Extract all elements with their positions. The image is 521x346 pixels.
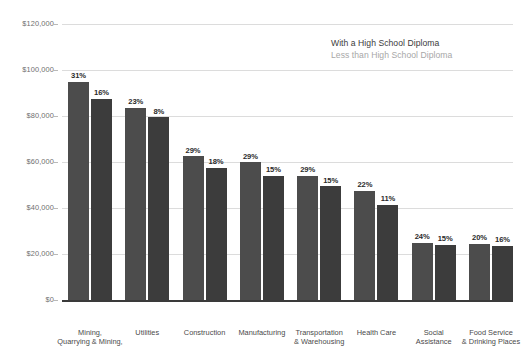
- y-axis-tick-mark: [53, 300, 58, 301]
- bar-value-label: 24%: [415, 232, 430, 241]
- bar-value-label: 16%: [495, 235, 510, 244]
- y-axis-tick-label: $120,000: [0, 19, 54, 28]
- bar-group: 29%18%: [183, 24, 227, 300]
- bar-value-label: 29%: [243, 152, 258, 161]
- y-axis-tick-mark: [53, 24, 58, 25]
- bar-value-label: 29%: [300, 165, 315, 174]
- bar-with-diploma: 29%: [183, 156, 204, 300]
- y-axis-tick-label: $20,000: [0, 249, 54, 258]
- y-axis-tick-label: $80,000: [0, 111, 54, 120]
- bar-less-than-diploma: 11%: [377, 205, 398, 300]
- chart-legend: With a High School Diploma Less than Hig…: [331, 38, 452, 61]
- y-axis-tick-label: $0: [0, 295, 54, 304]
- legend-item-with-diploma: With a High School Diploma: [331, 38, 452, 50]
- legend-item-less-than-diploma: Less than High School Diploma: [331, 50, 452, 62]
- bar-less-than-diploma: 8%: [148, 117, 169, 300]
- bar-value-label: 29%: [186, 146, 201, 155]
- plot-area: 31%16%Mining, Quarrying & Mining, and Oi…: [62, 24, 513, 300]
- bar-group: 29%15%: [240, 24, 284, 300]
- bar-group: 20%16%: [469, 24, 513, 300]
- bar-value-label: 16%: [94, 88, 109, 97]
- bar-group: 23%8%: [125, 24, 169, 300]
- bar-less-than-diploma: 16%: [91, 99, 112, 300]
- bar-less-than-diploma: 16%: [492, 246, 513, 300]
- bar-with-diploma: 29%: [240, 162, 261, 300]
- bar-with-diploma: 20%: [469, 244, 490, 300]
- bar-value-label: 31%: [71, 71, 86, 80]
- bar-chart: $120,000$100,000$80,000$60,000$40,000$20…: [0, 0, 521, 346]
- bar-less-than-diploma: 15%: [435, 245, 456, 300]
- bar-value-label: 20%: [472, 233, 487, 242]
- y-axis-tick-mark: [53, 254, 58, 255]
- bar-group: 29%15%: [297, 24, 341, 300]
- y-axis-tick-label: $60,000: [0, 157, 54, 166]
- bar-value-label: 22%: [357, 180, 372, 189]
- y-axis-tick-mark: [53, 116, 58, 117]
- bar-value-label: 8%: [153, 107, 164, 116]
- bar-less-than-diploma: 18%: [206, 168, 227, 300]
- bar-value-label: 11%: [381, 194, 395, 203]
- bar-with-diploma: 23%: [125, 108, 146, 300]
- bar-group: 24%15%: [412, 24, 456, 300]
- y-axis-tick-label: $40,000: [0, 203, 54, 212]
- bar-value-label: 23%: [128, 97, 143, 106]
- bar-with-diploma: 31%: [68, 82, 89, 301]
- bar-value-label: 18%: [209, 157, 224, 166]
- bar-with-diploma: 22%: [354, 191, 375, 300]
- bar-with-diploma: 29%: [297, 176, 318, 300]
- axis-baseline: [62, 300, 513, 302]
- y-axis-tick-mark: [53, 70, 58, 71]
- x-axis-category-label: Food Service & Drinking Places: [446, 328, 521, 346]
- y-axis-tick-mark: [53, 162, 58, 163]
- bar-group: 22%11%: [354, 24, 398, 300]
- bar-less-than-diploma: 15%: [263, 176, 284, 300]
- bar-value-label: 15%: [266, 165, 281, 174]
- bar-less-than-diploma: 15%: [320, 186, 341, 300]
- bar-value-label: 15%: [438, 234, 453, 243]
- bar-with-diploma: 24%: [412, 243, 433, 301]
- y-axis-tick-label: $100,000: [0, 65, 54, 74]
- y-axis-tick-mark: [53, 208, 58, 209]
- bar-value-label: 15%: [323, 176, 338, 185]
- bar-group: 31%16%: [68, 24, 112, 300]
- y-axis: $120,000$100,000$80,000$60,000$40,000$20…: [0, 24, 58, 300]
